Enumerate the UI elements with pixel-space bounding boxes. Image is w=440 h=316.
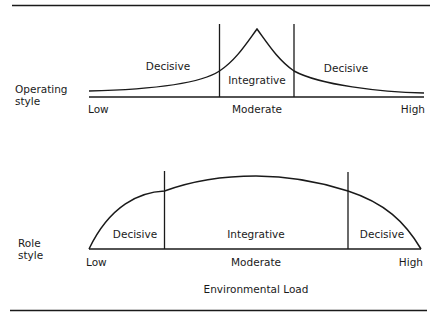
- operating-tick-low: Low: [88, 104, 109, 115]
- role-region-left: Decisive: [113, 229, 157, 240]
- role-tick-low: Low: [86, 257, 107, 268]
- operating-label-line1: Operating: [15, 83, 68, 95]
- operating-style-label: Operating style: [15, 83, 68, 107]
- x-axis-title: Environmental Load: [204, 284, 309, 295]
- role-label-line1: Role: [18, 237, 43, 249]
- role-region-right: Decisive: [360, 229, 404, 240]
- role-label-line2: style: [18, 249, 43, 261]
- role-region-middle: Integrative: [227, 229, 284, 240]
- operating-region-middle: Integrative: [228, 75, 285, 86]
- role-tick-moderate: Moderate: [231, 257, 281, 268]
- operating-region-left: Decisive: [146, 61, 190, 72]
- diagram-canvas: [0, 0, 440, 316]
- operating-tick-high: High: [401, 104, 425, 115]
- operating-label-line2: style: [15, 95, 68, 107]
- operating-tick-moderate: Moderate: [232, 104, 282, 115]
- role-tick-high: High: [399, 257, 423, 268]
- role-style-label: Role style: [18, 237, 43, 261]
- operating-region-right: Decisive: [324, 63, 368, 74]
